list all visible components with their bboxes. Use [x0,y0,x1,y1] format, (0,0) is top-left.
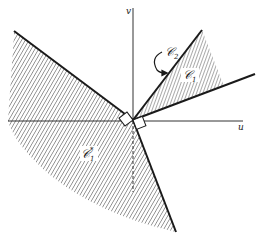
c2-arrow [154,52,165,73]
region-c1 [133,30,224,120]
c1-label: 𝒞 1 [181,68,199,84]
cone-diagram: v u 𝒞 2 𝒞 1 𝒞 1 * [0,0,262,239]
svg-text:1: 1 [90,155,94,163]
region-c1-star [8,31,176,232]
c1-star-label: 𝒞 1 * [80,146,98,163]
v-axis-label: v [126,6,131,16]
svg-text:*: * [90,146,94,154]
svg-text:2: 2 [173,53,179,61]
svg-text:1: 1 [192,76,196,84]
c2-label: 𝒞 2 [165,45,179,61]
u-axis-label: u [238,122,244,132]
